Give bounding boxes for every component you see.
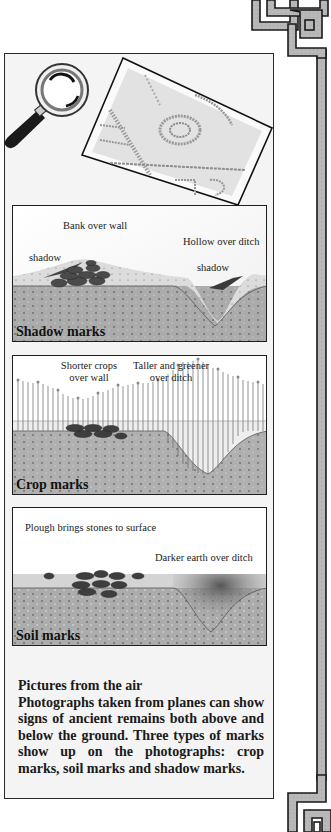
label-shadow-right: shadow [197,262,229,274]
magnifier-icon [5,64,88,148]
label-taller-greener-line2: over ditch [150,372,192,383]
label-hollow-over-ditch: Hollow over ditch [183,236,259,248]
label-shadow-left: shadow [29,252,61,264]
label-plough-stones: Plough brings stones to surface [25,522,156,534]
diagram-shadow-marks: Bank over wall Hollow over ditch shadow … [12,205,267,342]
caption-shadow-marks: Shadow marks [16,324,105,340]
caption-soil-marks: Soil marks [16,628,80,644]
explanation-text: Pictures from the air Photographs taken … [18,678,264,778]
label-darker-earth: Darker earth over ditch [155,552,253,564]
section-title: Pictures from the air [18,678,264,695]
hero-illustration [0,0,331,210]
section-body: Photographs taken from planes can show s… [18,695,264,778]
label-bank-over-wall: Bank over wall [63,220,127,232]
label-shorter-crops-line2: over wall [69,372,108,383]
label-taller-greener: Taller and greener over ditch [121,360,221,383]
diagram-crop-marks: Shorter crops over wall Taller and green… [12,355,267,495]
label-shorter-crops: Shorter crops over wall [49,360,129,383]
diagram-soil-marks: Plough brings stones to surface Darker e… [12,507,267,646]
label-taller-greener-line1: Taller and greener [133,360,209,371]
label-shorter-crops-line1: Shorter crops [61,360,117,371]
aerial-photo [82,58,272,205]
caption-crop-marks: Crop marks [16,477,88,493]
